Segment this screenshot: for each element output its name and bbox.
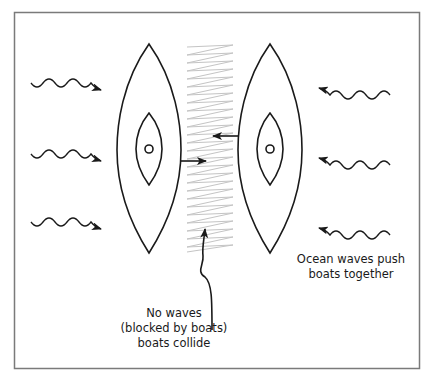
calm-zone-caption-line-1: No waves: [102, 306, 246, 321]
left-waves: [31, 79, 101, 229]
left-boat-center-dot: [145, 145, 153, 153]
right-boat-center-dot: [266, 145, 274, 153]
left-wave-2: [31, 150, 101, 161]
calm-zone-caption: No waves (blocked by boats) boats collid…: [102, 306, 246, 351]
calm-zone-caption-line-3: boats collide: [102, 336, 246, 351]
diagram-canvas: No waves (blocked by boats) boats collid…: [0, 0, 433, 385]
left-boat-inner: [136, 113, 162, 185]
left-boat: [117, 44, 181, 253]
calm-zone-zigzag: [187, 45, 233, 252]
ocean-waves-caption-line-2: boats together: [296, 267, 406, 282]
ocean-waves-caption-line-1: Ocean waves push: [296, 252, 406, 267]
right-wave-2: [319, 158, 390, 169]
right-boat-hull: [238, 44, 302, 253]
right-boat-inner: [257, 113, 283, 185]
ocean-waves-caption: Ocean waves push boats together: [296, 252, 406, 282]
left-wave-3: [31, 218, 101, 229]
right-wave-3: [319, 228, 390, 239]
right-waves: [319, 88, 390, 239]
right-boat: [238, 44, 302, 253]
left-wave-1: [31, 79, 101, 90]
left-boat-hull: [117, 44, 181, 253]
right-wave-1: [319, 88, 390, 99]
calm-zone-caption-line-2: (blocked by boats): [102, 321, 246, 336]
